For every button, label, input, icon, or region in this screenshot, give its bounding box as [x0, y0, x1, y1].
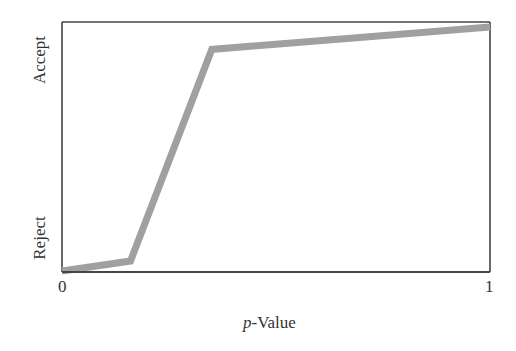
x-tick-1: 1: [485, 277, 494, 297]
decision-curve: [62, 27, 490, 271]
x-axis-label-rest: -Value: [252, 313, 296, 332]
x-axis-label: p-Value: [243, 313, 296, 333]
y-tick-reject: Reject: [30, 208, 50, 268]
x-tick-0: 0: [58, 277, 67, 297]
x-axis-label-p: p: [243, 313, 252, 332]
plot-area: [0, 0, 516, 351]
y-tick-accept: Accept: [30, 28, 50, 92]
